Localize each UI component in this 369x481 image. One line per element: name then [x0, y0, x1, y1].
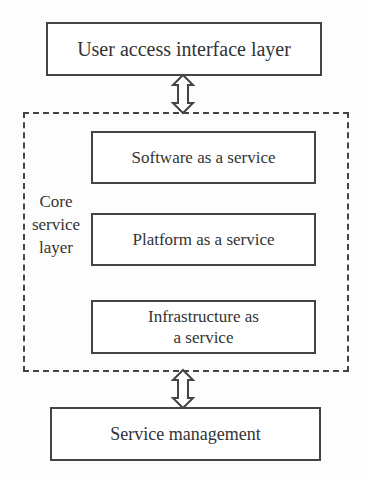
saas-label: Software as a service [132, 147, 276, 168]
core-label-line-1: Core [25, 191, 87, 214]
software-as-a-service-box: Software as a service [91, 131, 316, 184]
core-label-line-2: service [25, 214, 87, 237]
user-access-interface-layer-label: User access interface layer [77, 37, 291, 62]
iaas-label-line-2: a service [174, 327, 234, 348]
core-service-layer-label: Core service layer [25, 191, 87, 260]
user-access-interface-layer-box: User access interface layer [46, 22, 322, 76]
bidirectional-arrow-icon [171, 370, 195, 408]
infrastructure-as-a-service-box: Infrastructure as a service [91, 300, 316, 354]
platform-as-a-service-box: Platform as a service [91, 213, 316, 266]
bidirectional-arrow-icon [171, 75, 195, 113]
paas-label: Platform as a service [132, 229, 274, 250]
iaas-label-line-1: Infrastructure as [148, 306, 259, 327]
core-label-line-3: layer [25, 237, 87, 260]
service-management-label: Service management [110, 423, 260, 446]
service-management-box: Service management [50, 407, 321, 461]
